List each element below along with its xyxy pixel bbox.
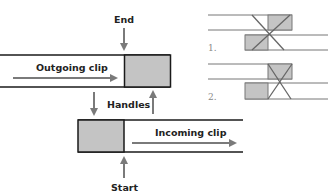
end-label: End bbox=[114, 14, 134, 25]
side2-incoming-handle bbox=[245, 83, 268, 99]
start-marker: Start bbox=[111, 160, 138, 193]
incoming-clip: Incoming clip bbox=[78, 120, 243, 152]
start-label: Start bbox=[111, 182, 138, 193]
side1-number: 1. bbox=[208, 43, 217, 53]
incoming-handle bbox=[78, 120, 124, 152]
outgoing-clip-label: Outgoing clip bbox=[36, 62, 108, 73]
incoming-clip-label: Incoming clip bbox=[155, 127, 227, 138]
side1-incoming-handle bbox=[245, 35, 268, 50]
outgoing-clip: Outgoing clip bbox=[0, 55, 171, 87]
side2-number: 2. bbox=[208, 92, 217, 102]
side-diagram-2: 2. bbox=[208, 64, 328, 102]
side2-outgoing-handle bbox=[268, 64, 292, 79]
end-marker: End bbox=[114, 14, 134, 47]
transition-handles-diagram: Outgoing clip End Handles Incoming clip … bbox=[0, 0, 332, 195]
side-diagram-1: 1. bbox=[208, 15, 328, 53]
handles-label: Handles bbox=[107, 99, 151, 110]
handles-marker: Handles bbox=[94, 92, 153, 114]
outgoing-handle bbox=[125, 55, 171, 87]
